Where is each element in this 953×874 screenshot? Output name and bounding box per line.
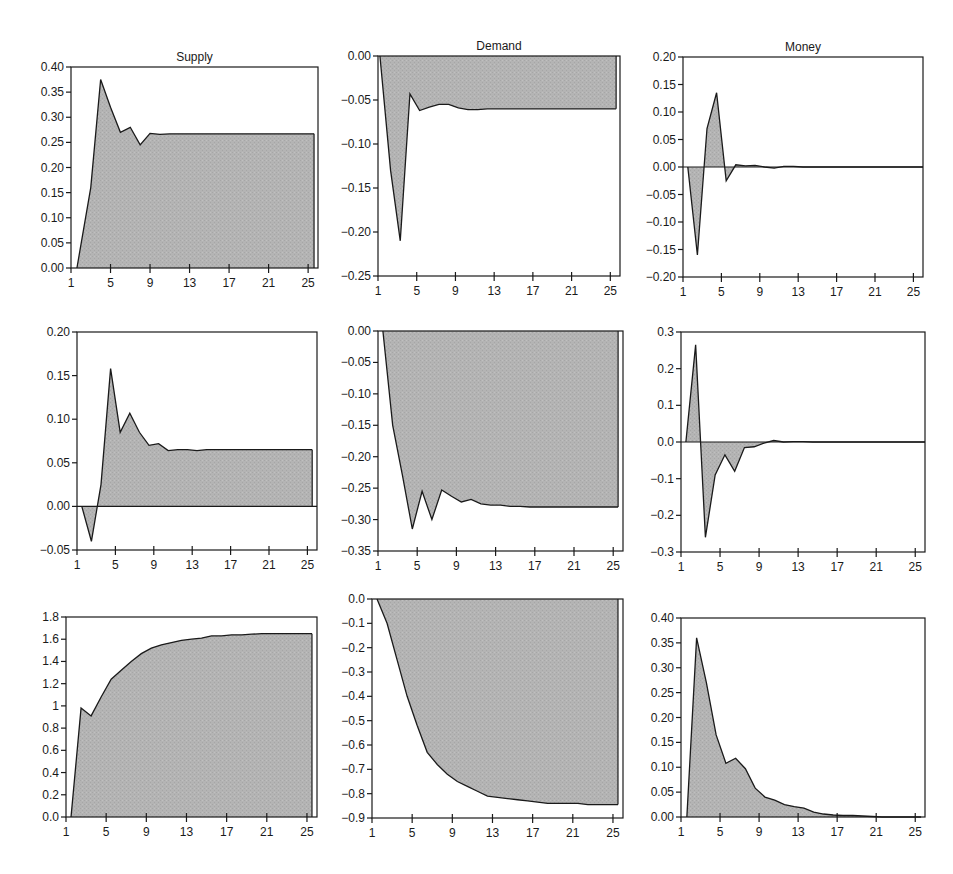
y-tick-label: 0.05 [653, 133, 677, 147]
chart-panel-r2-c1: 0.200.150.100.050.00−0.0515913172125 [40, 325, 317, 572]
y-tick-label: 0.20 [651, 711, 675, 725]
x-tick-label: 17 [222, 276, 236, 290]
x-tick-label: 21 [567, 559, 581, 573]
area-fill [77, 80, 314, 268]
y-tick-label: 1 [52, 699, 59, 713]
x-tick-label: 5 [413, 284, 420, 298]
y-tick-label: −0.15 [341, 181, 372, 195]
y-tick-label: 0.20 [653, 50, 677, 64]
x-tick-label: 1 [680, 285, 687, 299]
y-tick-label: 0.30 [41, 110, 65, 124]
y-tick-label: −0.35 [341, 544, 372, 558]
x-tick-label: 9 [150, 558, 157, 572]
x-tick-label: 9 [756, 825, 763, 839]
y-tick-label: −0.10 [341, 137, 372, 151]
y-tick-label: 0.2 [42, 788, 59, 802]
y-tick-label: 0.20 [47, 325, 71, 339]
x-tick-label: 17 [526, 826, 540, 840]
y-tick-label: 0.3 [657, 325, 674, 339]
y-tick-label: 0.1 [657, 398, 674, 412]
y-tick-label: 0.00 [348, 49, 372, 63]
y-tick-label: −0.20 [646, 270, 677, 284]
x-tick-label: 13 [183, 276, 197, 290]
area-fill [71, 634, 312, 817]
y-tick-label: 0.25 [651, 686, 675, 700]
area-fill [383, 331, 618, 529]
response-line [688, 93, 923, 255]
x-tick-label: 25 [301, 276, 315, 290]
y-tick-label: 0.15 [651, 735, 675, 749]
y-tick-label: 1.4 [42, 654, 59, 668]
x-tick-label: 5 [718, 285, 725, 299]
chart-panel-r2-c3: 0.30.20.10.0−0.1−0.2−0.315913172125 [650, 325, 925, 574]
chart-panel-r1-c3: Money0.200.150.100.050.00−0.05−0.10−0.15… [646, 40, 923, 299]
y-tick-label: −0.4 [341, 689, 365, 703]
y-tick-label: 0.05 [41, 236, 65, 250]
x-tick-label: 25 [604, 284, 618, 298]
y-tick-label: 0.0 [42, 810, 59, 824]
y-tick-label: −0.05 [646, 188, 677, 202]
y-tick-label: 0.0 [657, 435, 674, 449]
x-tick-label: 9 [756, 285, 763, 299]
x-tick-label: 9 [452, 284, 459, 298]
x-tick-label: 17 [830, 825, 844, 839]
x-tick-label: 5 [103, 825, 110, 839]
x-tick-label: 17 [224, 558, 238, 572]
y-tick-label: 0.00 [47, 499, 71, 513]
y-tick-label: −0.20 [341, 450, 372, 464]
y-tick-label: −0.9 [341, 811, 365, 825]
x-tick-label: 17 [220, 825, 234, 839]
chart-panel-r3-c1: 1.81.61.41.210.80.60.40.20.015913172125 [42, 610, 317, 839]
x-tick-label: 21 [262, 558, 276, 572]
y-tick-label: −0.25 [341, 269, 372, 283]
y-tick-label: −0.05 [40, 543, 71, 557]
x-tick-label: 21 [870, 560, 884, 574]
y-tick-label: −0.3 [650, 545, 674, 559]
y-tick-label: 0.35 [651, 636, 675, 650]
y-tick-label: −0.3 [341, 665, 365, 679]
x-tick-label: 13 [791, 825, 805, 839]
y-tick-label: 0.0 [348, 592, 365, 606]
y-tick-label: 0.10 [651, 760, 675, 774]
x-tick-label: 17 [830, 560, 844, 574]
y-tick-label: −0.05 [341, 355, 372, 369]
y-tick-label: −0.1 [650, 472, 674, 486]
y-tick-label: 0.35 [41, 85, 65, 99]
x-tick-label: 25 [606, 826, 620, 840]
y-tick-label: 1.8 [42, 610, 59, 624]
x-tick-label: 1 [375, 559, 382, 573]
y-tick-label: 0.30 [651, 661, 675, 675]
y-tick-label: −0.8 [341, 787, 365, 801]
y-tick-label: 0.4 [42, 766, 59, 780]
y-tick-label: −0.20 [341, 225, 372, 239]
y-tick-label: 0.8 [42, 721, 59, 735]
x-tick-label: 25 [301, 558, 315, 572]
x-tick-label: 13 [487, 284, 501, 298]
y-tick-label: 0.05 [47, 456, 71, 470]
y-tick-label: −0.5 [341, 714, 365, 728]
y-tick-label: −0.15 [646, 243, 677, 257]
y-tick-label: −0.7 [341, 762, 365, 776]
x-tick-label: 9 [453, 559, 460, 573]
x-tick-label: 25 [607, 559, 621, 573]
y-tick-label: −0.2 [650, 508, 674, 522]
chart-panel-r2-c2: 0.00−0.05−0.10−0.15−0.20−0.25−0.30−0.351… [341, 324, 623, 573]
x-tick-label: 1 [68, 276, 75, 290]
x-tick-label: 5 [414, 559, 421, 573]
y-tick-label: −0.10 [341, 387, 372, 401]
x-tick-label: 1 [678, 560, 685, 574]
y-tick-label: 0.00 [348, 324, 372, 338]
x-tick-label: 1 [74, 558, 81, 572]
x-tick-label: 21 [260, 825, 274, 839]
y-tick-label: 0.20 [41, 161, 65, 175]
x-tick-label: 9 [449, 826, 456, 840]
response-line [686, 345, 925, 537]
panel-title: Supply [176, 50, 213, 64]
x-tick-label: 21 [868, 285, 882, 299]
x-tick-label: 9 [143, 825, 150, 839]
x-tick-label: 21 [565, 284, 579, 298]
y-tick-label: −0.15 [341, 418, 372, 432]
y-tick-label: 0.00 [653, 160, 677, 174]
x-tick-label: 17 [830, 285, 844, 299]
y-tick-label: −0.10 [646, 215, 677, 229]
